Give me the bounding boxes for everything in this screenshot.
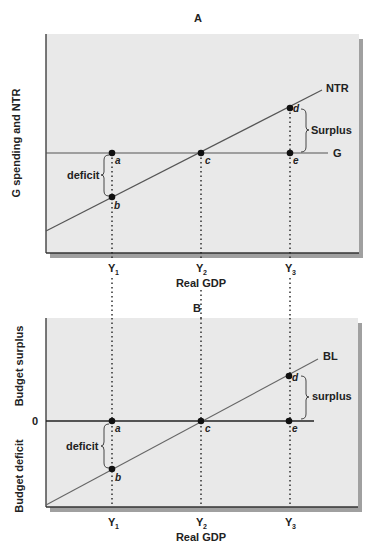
panel-b-zero-label: 0	[32, 415, 38, 427]
panel-a-y-axis-label: G spending and NTR	[10, 89, 22, 198]
panel-b-title: B	[193, 302, 201, 314]
panel-b-point-c	[198, 418, 205, 425]
budget-diagram: A G spending and NTR G NTR a b c d e	[0, 0, 377, 550]
panel-a-x-axis-label: Real GDP	[176, 277, 226, 289]
panel-a-x-tick-y2: Y 2	[196, 262, 207, 276]
panel-b-plot-area	[46, 318, 358, 507]
panel-a-title: A	[194, 12, 202, 24]
panel-a-plot-area	[46, 34, 359, 253]
panel-b-surplus-label: surplus	[312, 390, 352, 402]
panel-b-y-axis-label-deficit: Budget deficit	[13, 439, 25, 513]
panel-a-surplus-label: Surplus	[311, 124, 352, 136]
panel-a-point-e-label: e	[293, 155, 299, 166]
panel-a-point-c-label: c	[205, 155, 211, 166]
svg-text:2: 2	[203, 523, 207, 530]
panel-b-point-a-label: a	[115, 423, 121, 434]
panel-b-x-axis-label: Real GDP	[176, 531, 226, 543]
panel-a-x-tick-y1: Y 1	[108, 262, 119, 276]
panel-a-point-a-label: a	[115, 155, 121, 166]
g-line-label: G	[333, 147, 342, 159]
panel-b-point-c-label: c	[205, 423, 211, 434]
panel-a-x-tick-y3: Y 3	[285, 262, 296, 276]
svg-text:2: 2	[203, 269, 207, 276]
panel-b-y-axis-label-surplus: Budget surplus	[13, 326, 25, 407]
panel-b-point-b-label: b	[115, 472, 121, 483]
panel-a: A G spending and NTR G NTR a b c d e	[10, 12, 363, 318]
svg-text:3: 3	[292, 269, 296, 276]
panel-a-point-d-label: d	[293, 103, 300, 114]
bl-line-label: BL	[323, 350, 338, 362]
svg-text:1: 1	[115, 523, 119, 530]
panel-a-point-c	[198, 150, 205, 157]
panel-b-point-d-label: d	[292, 372, 299, 383]
svg-text:3: 3	[292, 523, 296, 530]
panel-b-deficit-label: deficit	[66, 440, 99, 452]
panel-b: B Budget surplus Budget deficit 0 BL a b…	[13, 302, 362, 543]
svg-text:1: 1	[115, 269, 119, 276]
panel-a-point-b-label: b	[114, 200, 120, 211]
panel-b-point-e-label: e	[292, 423, 298, 434]
panel-b-x-tick-y2: Y 2	[196, 516, 207, 530]
panel-a-deficit-label: deficit	[67, 169, 100, 181]
panel-b-x-tick-y3: Y 3	[285, 516, 296, 530]
ntr-line-label: NTR	[326, 82, 349, 94]
panel-b-x-tick-y1: Y 1	[108, 516, 119, 530]
